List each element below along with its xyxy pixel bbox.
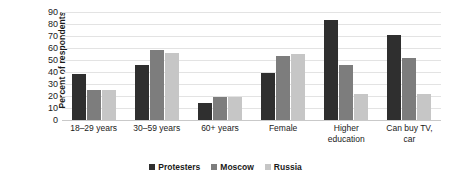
bar xyxy=(87,90,101,120)
bar xyxy=(261,73,275,120)
bar xyxy=(102,90,116,120)
bar xyxy=(228,97,242,120)
legend-label: Russia xyxy=(274,162,302,172)
y-axis-tick-labels: 0102030405060708090 xyxy=(38,12,58,120)
bar xyxy=(339,65,353,120)
bar xyxy=(213,97,227,120)
x-axis-tick-label: 18–29 years xyxy=(62,123,125,144)
bar-group xyxy=(378,12,441,120)
gridline xyxy=(62,120,441,121)
bar xyxy=(135,65,149,120)
bar-group xyxy=(125,12,188,120)
bar-group xyxy=(188,12,251,120)
y-axis-tick-label: 50 xyxy=(48,56,58,65)
legend-label: Protesters xyxy=(158,162,200,172)
y-axis-tick-label: 0 xyxy=(53,116,58,125)
legend-swatch-icon xyxy=(265,164,271,170)
y-axis-tick-label: 70 xyxy=(48,32,58,41)
bar xyxy=(402,58,416,120)
bar xyxy=(387,35,401,120)
y-axis-tick-label: 90 xyxy=(48,8,58,17)
y-axis-tick-label: 30 xyxy=(48,80,58,89)
bar-groups xyxy=(62,12,441,120)
x-axis-tick-labels: 18–29 years30–59 years60+ yearsFemaleHig… xyxy=(62,123,441,144)
x-axis-tick-label: 30–59 years xyxy=(125,123,188,144)
bar xyxy=(198,103,212,120)
legend-swatch-icon xyxy=(149,164,155,170)
bar xyxy=(150,50,164,120)
y-axis-tick-label: 80 xyxy=(48,20,58,29)
x-axis-tick-label: 60+ years xyxy=(188,123,251,144)
chart-legend: ProtestersMoscowRussia xyxy=(0,162,451,172)
legend-label: Moscow xyxy=(220,162,254,172)
legend-item[interactable]: Russia xyxy=(265,162,302,172)
bar xyxy=(291,54,305,120)
bar xyxy=(417,94,431,120)
y-axis-tick-label: 10 xyxy=(48,104,58,113)
bar xyxy=(165,53,179,120)
bar-group xyxy=(62,12,125,120)
bar xyxy=(276,56,290,120)
y-axis-tick-label: 20 xyxy=(48,92,58,101)
x-axis-tick-label: Higher education xyxy=(315,123,378,144)
plot-area xyxy=(62,12,441,120)
legend-swatch-icon xyxy=(211,164,217,170)
bar xyxy=(354,94,368,120)
bar xyxy=(324,20,338,120)
legend-item[interactable]: Protesters xyxy=(149,162,200,172)
legend-item[interactable]: Moscow xyxy=(211,162,254,172)
x-axis-tick-label: Can buy TV, car xyxy=(378,123,441,144)
bar-group xyxy=(252,12,315,120)
x-axis-tick-label: Female xyxy=(252,123,315,144)
y-axis-tick-label: 40 xyxy=(48,68,58,77)
y-axis-tick-label: 60 xyxy=(48,44,58,53)
bar xyxy=(72,74,86,120)
bar-chart: Percent of respondents 01020304050607080… xyxy=(0,0,451,184)
bar-group xyxy=(315,12,378,120)
